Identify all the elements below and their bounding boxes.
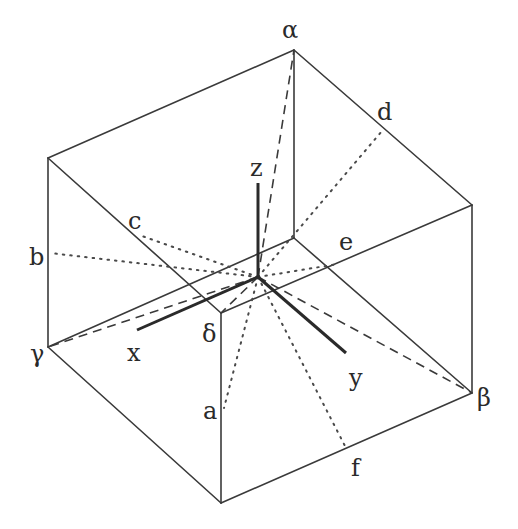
cube-diagram: α β γ δ z x y a b c d e f [0,0,518,529]
label-y-axis: y [348,364,363,392]
line-to-a [224,277,258,408]
label-gamma: γ [30,340,44,368]
diagonal-to-beta [258,277,472,393]
label-c: c [128,207,141,235]
edge-top-back-right [294,50,472,205]
label-alpha: α [282,16,298,44]
edge-top-front-left [48,158,221,313]
label-beta: β [477,384,491,412]
line-to-f [258,277,345,446]
label-e: e [339,228,353,256]
y-axis [258,277,346,353]
edge-bottom-front-right [221,393,472,503]
label-d: d [377,98,392,126]
label-f: f [351,454,362,482]
diagonal-to-gamma [48,277,258,347]
label-b: b [29,243,44,271]
edge-top-back-left [48,50,294,158]
label-x-axis: x [127,339,141,367]
line-to-d [258,131,382,277]
vertex-diagonals [48,50,472,393]
diagonal-to-alpha [258,50,294,277]
label-delta: δ [202,320,216,348]
edge-bottom-back-right [294,238,472,393]
label-a: a [203,397,217,425]
edge-bottom-front-left [48,347,221,503]
labels: α β γ δ z x y a b c d e f [29,16,491,482]
line-to-b [50,253,258,277]
coordinate-axes [137,183,346,353]
x-axis [137,277,258,330]
line-to-e [258,264,338,277]
label-z-axis: z [250,154,263,182]
cube-diagram-svg: α β γ δ z x y a b c d e f [0,0,518,529]
